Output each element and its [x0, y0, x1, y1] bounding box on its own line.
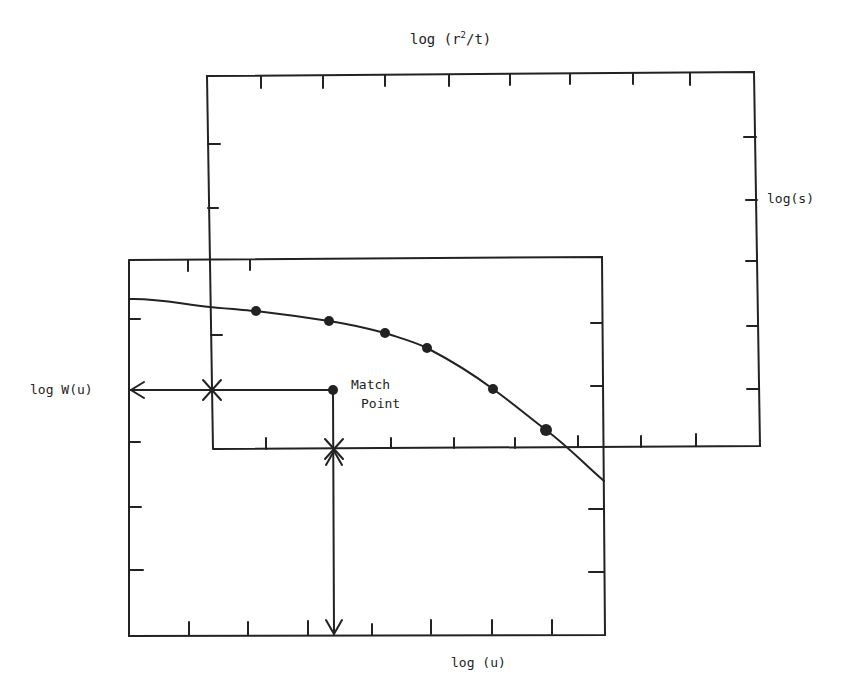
match-point-label-line1: Match	[351, 377, 390, 392]
type-curve-diagram	[0, 0, 850, 699]
top-axis-text: log (r	[410, 31, 461, 47]
match-vertical-line	[333, 390, 334, 634]
top-axis-rest: /t)	[466, 31, 491, 47]
match-point-label-line2: Point	[361, 396, 400, 411]
right-axis-label: log(s)	[767, 191, 814, 206]
match-point-dot	[328, 385, 338, 395]
left-axis-label: log W(u)	[30, 382, 93, 397]
top-axis-label: log (r2/t)	[410, 30, 491, 47]
data-plot-frame	[207, 72, 760, 449]
data-points	[251, 306, 552, 436]
bottom-axis-label: log (u)	[451, 655, 506, 670]
